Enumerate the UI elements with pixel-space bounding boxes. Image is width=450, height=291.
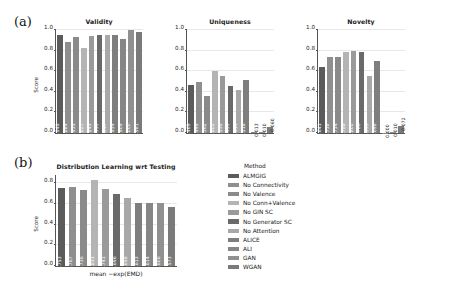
legend-color-swatch xyxy=(228,174,239,178)
bar[interactable]: 0.884 xyxy=(65,42,71,133)
bar[interactable]: 0.833 xyxy=(91,180,99,266)
bar-value-label: 0.947 xyxy=(102,123,107,137)
chart-validity: Validity0.00.20.40.60.81.00.9490.8840.93… xyxy=(55,30,143,134)
bar[interactable]: 0.614 xyxy=(146,203,154,266)
bar[interactable]: 0.010 xyxy=(259,132,265,133)
bar-slot: 0.000 xyxy=(381,30,389,133)
bar[interactable]: 0.736 xyxy=(80,190,88,266)
bar[interactable]: 0.698 xyxy=(374,61,380,133)
legend-item[interactable]: No Generator SC xyxy=(228,217,348,226)
bar-value-label: 0.658 xyxy=(123,256,128,270)
bar[interactable]: 0.741 xyxy=(102,189,110,266)
bar[interactable]: 0.827 xyxy=(81,48,87,133)
legend-item[interactable]: No Valence xyxy=(228,190,348,199)
legend-item-label: No Valence xyxy=(243,191,275,197)
bar[interactable]: 0.696 xyxy=(113,194,121,266)
bar[interactable]: 0.788 xyxy=(343,52,349,133)
bar[interactable]: 0.947 xyxy=(105,35,111,133)
bar[interactable]: 0.606 xyxy=(157,203,165,266)
bar[interactable]: 0.072 xyxy=(398,126,404,133)
chart-novelty: Novelty0.00.20.40.60.81.00.6410.7380.734… xyxy=(317,30,405,134)
bar[interactable]: 0.945 xyxy=(89,36,95,133)
plot-area: 0.00.20.40.60.81.00.6410.7380.7340.7880.… xyxy=(317,30,405,134)
y-axis-tick-label: 0.8 xyxy=(306,45,315,51)
legend-color-swatch xyxy=(228,183,239,187)
bar-value-label: 0.949 xyxy=(55,123,60,137)
bar[interactable]: 0.955 xyxy=(97,35,103,133)
bar-value-label: 0.072 xyxy=(401,117,406,131)
bar[interactable]: 0.613 xyxy=(135,203,143,266)
y-axis-label: Score xyxy=(33,77,39,93)
bar-slot: 0.767 xyxy=(67,175,78,266)
bar[interactable]: 0.602 xyxy=(212,71,218,133)
bar-value-label: 0.602 xyxy=(210,123,215,137)
bar[interactable]: 0.738 xyxy=(327,57,333,133)
bar-value-label: 0.573 xyxy=(167,256,172,270)
bar[interactable]: 0.954 xyxy=(112,35,118,133)
bar-slot: 0.741 xyxy=(100,175,111,266)
bar[interactable]: 0.935 xyxy=(73,37,79,133)
panel-b-tag: (b) xyxy=(14,155,32,170)
bar[interactable]: 0.010 xyxy=(390,132,396,133)
bar[interactable]: 0.362 xyxy=(204,96,210,133)
bar-value-label: 0.414 xyxy=(233,123,238,137)
legend-item-label: No Generator SC xyxy=(243,219,292,225)
legend-item[interactable]: No GIN SC xyxy=(228,208,348,217)
legend-item-label: No GIN SC xyxy=(243,209,273,215)
bar-slot: 0.833 xyxy=(89,175,100,266)
y-axis-tick-label: 0.8 xyxy=(44,177,53,183)
legend-item[interactable]: ALMGIG xyxy=(228,172,348,181)
bar[interactable]: 0.767 xyxy=(69,187,77,266)
legend-item[interactable]: ALICE xyxy=(228,235,348,244)
bar-slot: 0.414 xyxy=(234,30,242,133)
bar-slot: 0.945 xyxy=(88,30,96,133)
bar-group: 0.9490.8840.9350.8270.9450.9550.9470.954… xyxy=(56,30,143,133)
bar-group: 0.7530.7670.7360.8330.7410.6960.6580.613… xyxy=(56,175,177,266)
bar[interactable]: 0.469 xyxy=(188,85,194,133)
legend-item[interactable]: GAN xyxy=(228,253,348,262)
bar[interactable]: 0.786 xyxy=(359,52,365,133)
bar-value-label: 0.734 xyxy=(333,123,338,137)
y-axis-tick-label: 0.6 xyxy=(175,65,184,71)
bar[interactable]: 0.909 xyxy=(120,39,126,133)
plot-area: 0.00.20.40.60.80.7530.7670.7360.8330.741… xyxy=(55,175,177,267)
legend-item[interactable]: ALI xyxy=(228,244,348,253)
legend-item-label: WGAN xyxy=(243,264,262,270)
bar[interactable]: 0.060 xyxy=(267,127,273,133)
bar[interactable]: 0.981 xyxy=(136,32,142,133)
bar[interactable]: 0.753 xyxy=(58,188,66,266)
bar[interactable]: 0.800 xyxy=(351,51,357,133)
y-axis-tick-label: 0.4 xyxy=(306,86,315,92)
bar[interactable]: 0.949 xyxy=(57,35,63,133)
bar[interactable]: 0.499 xyxy=(196,82,202,133)
bar[interactable]: 0.641 xyxy=(319,67,325,133)
legend-item[interactable]: WGAN xyxy=(228,262,348,271)
y-axis-label: Score xyxy=(33,216,39,232)
legend-item-label: ALICE xyxy=(243,237,260,243)
bar[interactable]: 0.658 xyxy=(124,198,132,266)
bar-value-label: 0.698 xyxy=(372,123,377,137)
bar-value-label: 1.000 xyxy=(126,123,131,137)
bar-value-label: 0.833 xyxy=(90,256,95,270)
bar[interactable]: 1.000 xyxy=(128,30,134,133)
bar-slot: 0.641 xyxy=(318,30,326,133)
bar-slot: 0.788 xyxy=(342,30,350,133)
bar[interactable]: 0.000 xyxy=(382,133,388,134)
bar[interactable]: 0.518 xyxy=(243,80,249,133)
y-axis-tick-label: 0.2 xyxy=(175,106,184,112)
plot-title: Uniqueness xyxy=(186,18,274,25)
bar[interactable]: 0.573 xyxy=(168,207,176,266)
y-axis-tick-label: 0.2 xyxy=(44,106,53,112)
legend-item[interactable]: No Conn+Valence xyxy=(228,199,348,208)
legend-item[interactable]: No Attention xyxy=(228,226,348,235)
bar-value-label: 0.788 xyxy=(341,123,346,137)
bar-value-label: 0.555 xyxy=(364,123,369,137)
bar-value-label: 0.499 xyxy=(194,123,199,137)
bar-value-label: 0.459 xyxy=(225,123,230,137)
bar-slot: 0.884 xyxy=(64,30,72,133)
y-axis-tick-label: 0.4 xyxy=(44,219,53,225)
bar[interactable]: 0.013 xyxy=(251,132,257,133)
legend-item[interactable]: No Connectivity xyxy=(228,181,348,190)
bar[interactable]: 0.734 xyxy=(335,57,341,133)
bar-value-label: 0.060 xyxy=(270,118,275,132)
